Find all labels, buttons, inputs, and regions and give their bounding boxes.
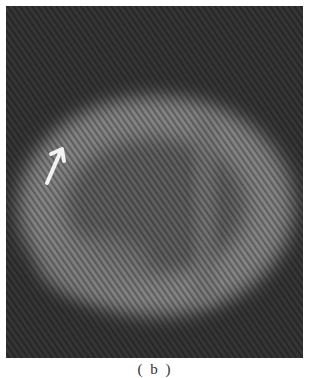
figure-image — [6, 6, 303, 358]
scan-image — [6, 6, 303, 358]
figure-caption: ( b ) — [0, 360, 310, 378]
